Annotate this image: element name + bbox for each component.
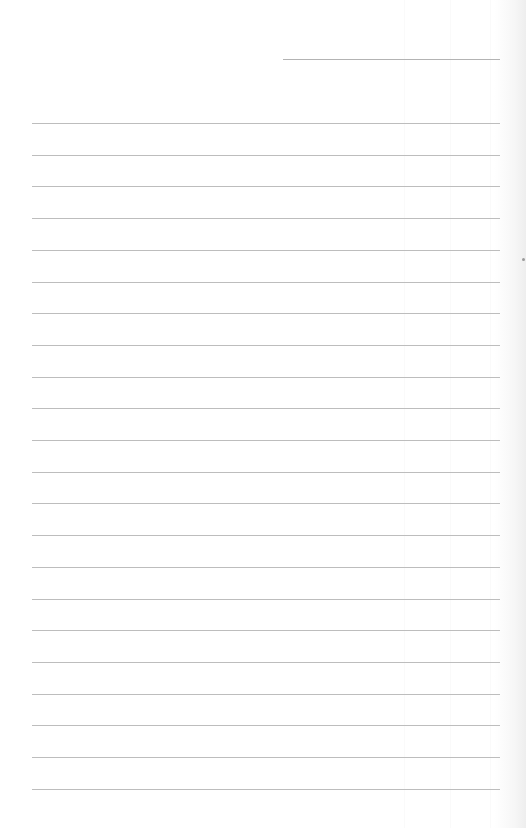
ruled-line: [32, 440, 500, 441]
scan-streak: [404, 0, 405, 828]
ruled-line: [32, 725, 500, 726]
ruled-line: [32, 789, 500, 790]
ruled-line: [32, 377, 500, 378]
scan-streak: [490, 0, 491, 828]
ruled-line: [32, 250, 500, 251]
lined-paper-sheet: [0, 0, 526, 828]
scan-streak: [450, 0, 451, 828]
ruled-line: [32, 694, 500, 695]
ruled-line: [32, 472, 500, 473]
edge-speck: [522, 258, 525, 261]
title-line: [283, 59, 500, 60]
ruled-line: [32, 408, 500, 409]
ruled-line: [32, 155, 500, 156]
ruled-line: [32, 218, 500, 219]
ruled-line: [32, 567, 500, 568]
ruled-line: [32, 313, 500, 314]
ruled-line: [32, 345, 500, 346]
ruled-line: [32, 282, 500, 283]
ruled-line: [32, 535, 500, 536]
ruled-line: [32, 630, 500, 631]
ruled-line: [32, 186, 500, 187]
ruled-line: [32, 757, 500, 758]
ruled-line: [32, 599, 500, 600]
ruled-line: [32, 123, 500, 124]
ruled-line: [32, 662, 500, 663]
ruled-line: [32, 503, 500, 504]
